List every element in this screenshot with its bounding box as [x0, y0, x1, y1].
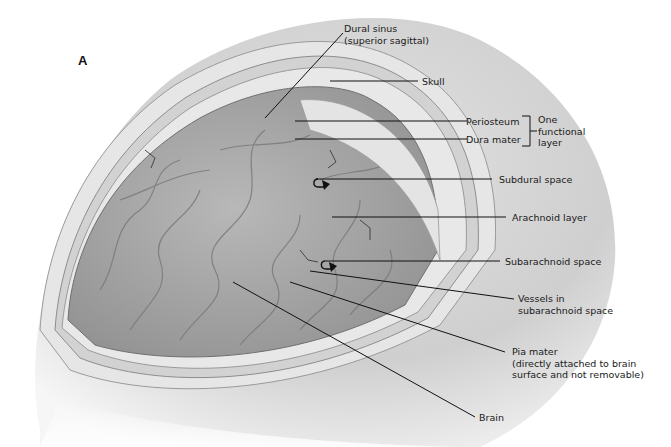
label-pia-mater: Pia mater (directly attached to brain su…: [512, 346, 644, 381]
label-arachnoid-layer: Arachnoid layer: [512, 212, 587, 224]
meninges-diagram: A Dural sinus (superior sagittal) Skull …: [0, 0, 671, 447]
label-dura-mater: Dura mater: [466, 134, 521, 146]
label-dural-sinus: Dural sinus (superior sagittal): [344, 23, 429, 46]
label-one-functional-layer: One functional layer: [538, 114, 585, 149]
label-periosteum: Periosteum: [466, 116, 519, 128]
label-brain: Brain: [479, 412, 504, 424]
label-subarachnoid-space: Subarachnoid space: [505, 256, 601, 268]
label-skull: Skull: [422, 76, 445, 88]
panel-label: A: [78, 53, 87, 68]
label-subdural-space: Subdural space: [499, 174, 572, 186]
label-vessels: Vessels in subarachnoid space: [518, 293, 613, 316]
